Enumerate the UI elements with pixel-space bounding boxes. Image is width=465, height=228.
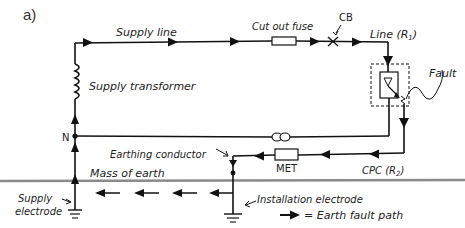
neutral-link-icon xyxy=(272,133,290,141)
supply-electrode-label-line2: electrode xyxy=(15,206,62,217)
arrow-left-icon xyxy=(134,189,159,197)
cb-label: CB xyxy=(339,12,353,23)
cpc-wire xyxy=(233,149,404,161)
arrow-up-icon xyxy=(71,174,79,184)
supply-transformer-wire xyxy=(71,43,79,210)
installation-electrode-icon xyxy=(224,201,256,222)
supply-line-label: Supply line xyxy=(116,26,177,39)
neutral-label: N xyxy=(62,132,69,143)
arrow-up-icon xyxy=(71,142,79,152)
arrow-left-icon xyxy=(320,150,330,159)
earthing-conductor-label: Earthing conductor xyxy=(110,149,207,160)
earth-path-arrows xyxy=(95,189,233,197)
mass-of-earth-label: Mass of earth xyxy=(90,167,165,180)
arrow-right-icon xyxy=(83,38,93,47)
arrow-left-icon xyxy=(209,189,233,197)
arrow-right-icon xyxy=(352,38,362,47)
transformer-coil-icon xyxy=(75,64,79,99)
arrow-left-icon xyxy=(369,150,379,159)
legend-label: = Earth fault path xyxy=(304,209,403,222)
met-label: MET xyxy=(276,163,298,174)
neutral-wire xyxy=(75,133,389,141)
arrow-left-icon xyxy=(95,189,120,197)
arrow-right-icon xyxy=(310,37,320,46)
arrow-down-icon xyxy=(229,160,237,167)
cut-out-fuse-label: Cut out fuse xyxy=(252,21,313,32)
cut-out-fuse-icon xyxy=(272,37,296,45)
line-r1-label: Line (R1) xyxy=(370,28,417,42)
fault-spark-icon xyxy=(401,96,405,104)
arrow-up-icon xyxy=(71,114,79,124)
arrow-left-icon xyxy=(172,189,197,197)
fault-label: Fault xyxy=(429,67,457,80)
arrow-down-icon xyxy=(399,118,409,128)
supply-electrode-label-line1: Supply xyxy=(18,193,53,204)
line-r1-wire xyxy=(383,42,393,72)
supply-transformer-label: Supply transformer xyxy=(89,80,197,93)
legend: = Earth fault path xyxy=(280,209,403,222)
earth-fault-loop-diagram: = Earth fault path Supply line Cut out f… xyxy=(0,0,465,228)
arrow-left-icon xyxy=(254,152,264,161)
met-box-icon xyxy=(275,149,298,160)
arrow-right-icon xyxy=(230,37,240,46)
supply-electrode-icon xyxy=(68,210,82,218)
installation-electrode-label: Installation electrode xyxy=(257,194,363,205)
cpc-r2-label: CPC (R2) xyxy=(362,165,404,178)
